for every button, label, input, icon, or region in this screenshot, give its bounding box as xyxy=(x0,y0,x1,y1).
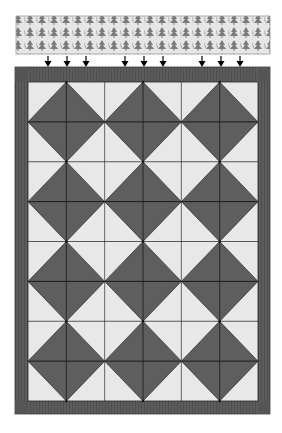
down-arrow-icon xyxy=(122,56,129,67)
border-corner xyxy=(258,401,270,414)
vertex-dot xyxy=(65,161,67,163)
down-arrow-icon xyxy=(218,56,225,67)
down-arrow-icon xyxy=(141,56,148,67)
border-corner xyxy=(15,67,28,82)
placement-arrows xyxy=(45,56,244,67)
down-arrow-icon xyxy=(64,56,71,67)
vertex-dot xyxy=(142,320,144,322)
border-corner xyxy=(15,401,28,414)
vertex-dot xyxy=(142,161,144,163)
border-corner xyxy=(258,67,270,82)
quilt-diagram xyxy=(0,0,282,433)
vertex-dot xyxy=(218,161,220,163)
quilt xyxy=(15,67,270,414)
vertex-dot xyxy=(142,240,144,242)
vertex-dot xyxy=(218,320,220,322)
down-arrow-icon xyxy=(83,56,90,67)
quilt-center xyxy=(28,81,258,402)
down-arrow-icon xyxy=(199,56,206,67)
down-arrow-icon xyxy=(237,56,244,67)
pine-tree-print-fabric xyxy=(16,16,270,54)
vertex-dot xyxy=(218,240,220,242)
vertex-dot xyxy=(65,320,67,322)
vertex-dot xyxy=(65,240,67,242)
fabric-strip xyxy=(16,16,270,54)
down-arrow-icon xyxy=(160,56,167,67)
down-arrow-icon xyxy=(45,56,52,67)
